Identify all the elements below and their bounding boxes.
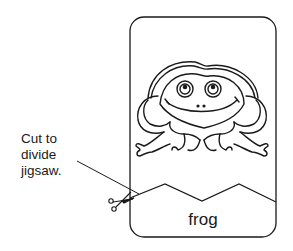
- instruction-line-3: jigsaw.: [21, 163, 62, 179]
- zigzag-cut-line: [130, 184, 276, 202]
- card-outline: [130, 17, 276, 237]
- card-word-label: frog: [130, 210, 276, 230]
- instruction-text: Cut to divide jigsaw.: [21, 131, 62, 179]
- instruction-line-1: Cut to: [21, 131, 62, 147]
- frog-illustration: [136, 62, 268, 156]
- instruction-line-2: divide: [21, 147, 62, 163]
